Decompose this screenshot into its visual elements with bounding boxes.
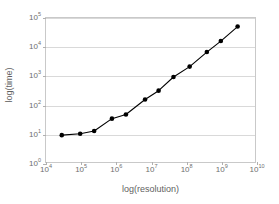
gridline-horizontal — [46, 106, 255, 107]
gridline-horizontal — [46, 76, 255, 77]
x-tick-label: 107 — [146, 166, 158, 174]
y-tick-label: 105 — [29, 14, 41, 22]
y-tick-mark — [43, 106, 46, 107]
x-tick-label: 104 — [40, 166, 52, 174]
x-tick-label: 109 — [216, 166, 228, 174]
log-log-chart: 100101102103104105 104105106107108109101… — [0, 0, 279, 204]
y-tick-mark — [43, 18, 46, 19]
x-axis-title: log(resolution) — [45, 184, 256, 194]
y-tick-label: 104 — [29, 43, 41, 51]
y-tick-mark — [43, 76, 46, 77]
gridline-horizontal — [46, 18, 255, 19]
x-tick-label: 106 — [110, 166, 122, 174]
y-tick-label: 102 — [29, 102, 41, 110]
y-tick-mark — [43, 135, 46, 136]
y-tick-label: 101 — [29, 131, 41, 139]
y-tick-label: 103 — [29, 72, 41, 80]
plot-area: 100101102103104105 104105106107108109101… — [45, 17, 256, 163]
y-tick-mark — [43, 47, 46, 48]
gridline-horizontal — [46, 135, 255, 136]
x-tick-label: 105 — [75, 166, 87, 174]
x-tick-label: 1010 — [249, 166, 264, 174]
gridline-horizontal — [46, 47, 255, 48]
x-tick-label: 108 — [181, 166, 193, 174]
y-axis-title: log(time) — [4, 50, 14, 120]
